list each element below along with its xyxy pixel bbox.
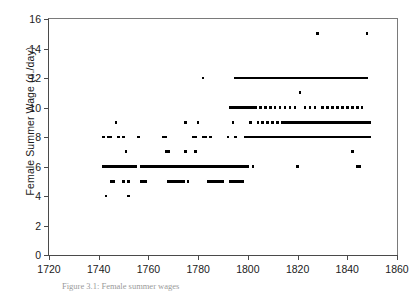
data-point xyxy=(341,106,344,109)
data-point xyxy=(336,106,339,109)
data-point xyxy=(274,106,277,109)
y-axis-tick-label: 8 xyxy=(35,131,41,143)
data-point xyxy=(227,136,230,139)
data-point xyxy=(127,195,130,198)
data-point xyxy=(314,106,317,109)
x-axis-tick-label: 1780 xyxy=(186,263,209,275)
x-axis-tick-label: 1760 xyxy=(137,263,160,275)
data-point xyxy=(296,165,299,168)
data-point xyxy=(184,121,187,124)
data-point xyxy=(366,77,369,80)
data-point xyxy=(105,195,108,198)
data-point xyxy=(137,136,140,139)
data-point xyxy=(361,106,364,109)
data-point xyxy=(222,180,225,183)
data-point xyxy=(264,106,267,109)
x-axis-tick xyxy=(148,255,149,260)
y-axis-tick xyxy=(44,78,49,79)
data-point xyxy=(125,150,128,153)
data-point xyxy=(112,180,115,183)
data-point xyxy=(346,106,349,109)
data-point xyxy=(117,136,120,139)
y-axis-tick-label: 10 xyxy=(29,102,41,114)
data-point xyxy=(304,106,307,109)
data-point xyxy=(309,106,312,109)
x-axis-tick xyxy=(248,255,249,260)
data-point xyxy=(197,121,200,124)
data-point xyxy=(321,106,324,109)
y-axis-tick xyxy=(44,226,49,227)
data-point xyxy=(368,136,371,139)
x-axis-tick-label: 1720 xyxy=(37,263,60,275)
data-point xyxy=(326,106,329,109)
data-point xyxy=(102,136,105,139)
data-point xyxy=(145,180,148,183)
data-point xyxy=(266,121,269,124)
y-axis-tick xyxy=(44,167,49,168)
x-axis-tick-label: 1820 xyxy=(286,263,309,275)
data-point xyxy=(122,180,125,183)
data-point xyxy=(194,136,197,139)
data-point xyxy=(110,136,113,139)
x-axis-tick xyxy=(99,255,100,260)
data-point xyxy=(279,106,282,109)
x-axis-tick-label: 1740 xyxy=(87,263,110,275)
data-point xyxy=(252,165,255,168)
y-axis-tick xyxy=(44,49,49,50)
data-point xyxy=(261,121,264,124)
y-axis-tick xyxy=(44,19,49,20)
y-axis-tick-label: 0 xyxy=(35,249,41,261)
data-point xyxy=(257,121,260,124)
data-point xyxy=(232,121,235,124)
data-point xyxy=(167,150,170,153)
figure-caption: Figure 3.1: Female summer wages xyxy=(62,281,179,291)
data-point xyxy=(234,136,237,139)
data-point xyxy=(204,136,207,139)
data-point xyxy=(182,180,185,183)
data-point xyxy=(209,136,212,139)
data-point xyxy=(316,32,319,35)
y-axis-tick-label: 2 xyxy=(35,220,41,232)
data-point xyxy=(284,106,287,109)
y-axis-tick-label: 4 xyxy=(35,190,41,202)
data-point xyxy=(115,121,118,124)
y-axis-tick xyxy=(44,108,49,109)
data-point xyxy=(202,77,205,80)
data-point xyxy=(271,121,274,124)
data-point-layer xyxy=(49,19,397,255)
x-axis-tick-label: 1860 xyxy=(385,263,408,275)
y-axis-tick-label: 16 xyxy=(29,13,41,25)
x-axis-tick xyxy=(347,255,348,260)
data-point xyxy=(351,106,354,109)
data-point xyxy=(247,165,250,168)
data-point xyxy=(331,106,334,109)
x-axis-tick xyxy=(198,255,199,260)
data-point xyxy=(242,180,245,183)
data-point xyxy=(299,91,302,94)
data-point xyxy=(187,180,190,183)
data-point xyxy=(358,165,361,168)
data-point xyxy=(289,106,292,109)
data-point xyxy=(259,106,262,109)
x-axis-tick xyxy=(397,255,398,260)
y-axis-tick-label: 6 xyxy=(35,161,41,173)
y-axis-tick xyxy=(44,137,49,138)
x-axis-tick xyxy=(49,255,50,260)
x-axis-tick-label: 1840 xyxy=(336,263,359,275)
data-point xyxy=(122,136,125,139)
data-point xyxy=(135,165,138,168)
y-axis-tick-label: 12 xyxy=(29,72,41,84)
data-point xyxy=(249,121,252,124)
data-point xyxy=(276,121,279,124)
data-point xyxy=(366,32,369,35)
data-point xyxy=(351,150,354,153)
data-point xyxy=(269,106,272,109)
data-point xyxy=(294,106,297,109)
data-point xyxy=(254,106,257,109)
data-point xyxy=(368,121,371,124)
x-axis-tick xyxy=(298,255,299,260)
data-point xyxy=(356,106,359,109)
data-point xyxy=(184,150,187,153)
data-point xyxy=(194,150,197,153)
